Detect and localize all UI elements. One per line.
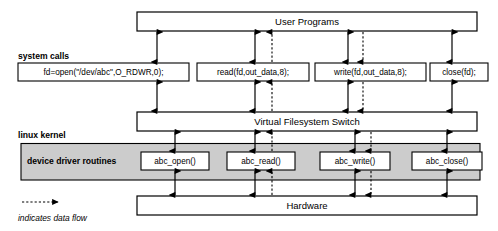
driver-abc-read-label: abc_read() xyxy=(241,157,281,166)
syscall-open-label: fd=open("/dev/abc",O_RDWR,0); xyxy=(44,68,164,77)
driver-abc-write-label: abc_write() xyxy=(335,157,376,166)
linux-driver-flow-diagram: User Programs Virtual Filesystem Switch … xyxy=(0,0,498,231)
side-label-system-calls: system calls xyxy=(18,51,69,61)
vfs-label: Virtual Filesystem Switch xyxy=(254,116,359,127)
driver-abc-close-label: abc_close() xyxy=(426,157,469,166)
driver-abc-open-label: abc_open() xyxy=(154,157,196,166)
user-programs-label: User Programs xyxy=(275,16,339,27)
legend-label: indicates data flow xyxy=(18,213,88,223)
hardware-label: Hardware xyxy=(286,200,327,211)
syscall-read-label: read(fd,out_data,8); xyxy=(217,68,289,77)
syscall-close-label: close(fd); xyxy=(442,68,476,77)
diagram-canvas: User Programs Virtual Filesystem Switch … xyxy=(0,0,498,231)
side-label-linux-kernel: linux kernel xyxy=(18,130,66,140)
syscall-write-label: write(fd,out_data,8); xyxy=(333,68,407,77)
side-label-device-driver-routines: device driver routines xyxy=(27,156,117,166)
